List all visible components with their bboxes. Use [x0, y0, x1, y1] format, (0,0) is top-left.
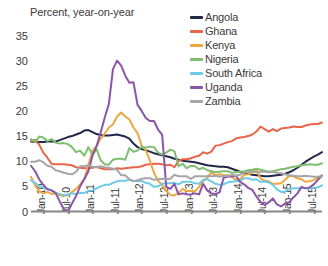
- plot-area: [0, 0, 328, 266]
- series-paths: [31, 61, 322, 212]
- chart-container: Percent, year-on-year AngolaGhanaKenyaNi…: [0, 0, 328, 266]
